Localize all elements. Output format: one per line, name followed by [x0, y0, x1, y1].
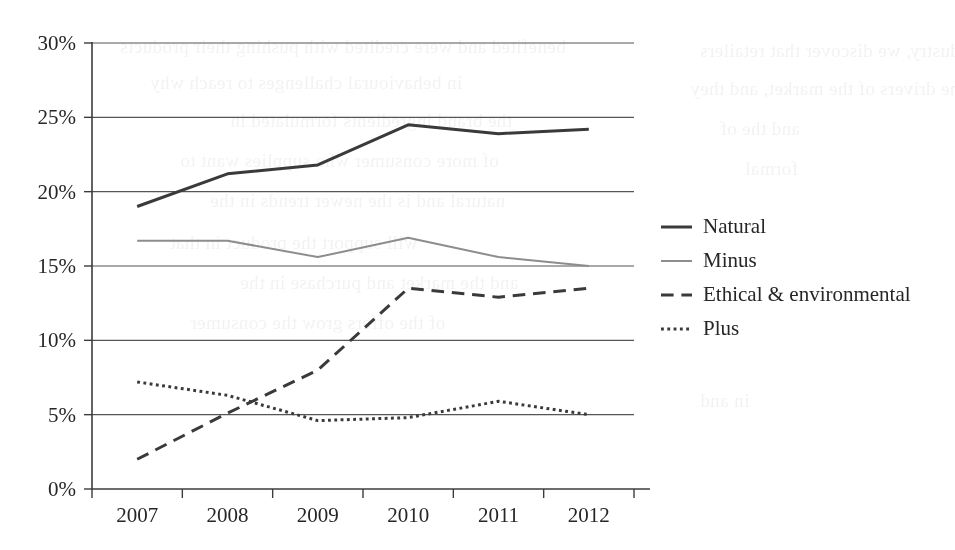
x-tick-label: 2012: [568, 503, 610, 527]
x-tick-label: 2007: [116, 503, 158, 527]
y-tick-label: 20%: [38, 180, 77, 204]
y-tick-label: 15%: [38, 254, 77, 278]
y-tick-label: 25%: [38, 105, 77, 129]
legend: NaturalMinusEthical & environmentalPlus: [661, 214, 911, 340]
series-line-natural: [137, 125, 589, 207]
legend-label: Plus: [703, 316, 739, 340]
legend-label: Ethical & environmental: [703, 282, 911, 306]
x-tick-label: 2011: [478, 503, 519, 527]
series-line-ethical-environmental: [137, 288, 589, 459]
x-tick-label: 2008: [207, 503, 249, 527]
gridlines: [92, 43, 634, 415]
y-tick-labels: 0%5%10%15%20%25%30%: [38, 31, 77, 501]
series-line-minus: [137, 238, 589, 266]
x-axis: [92, 489, 650, 498]
chart-canvas: 0%5%10%15%20%25%30% 20072008200920102011…: [0, 0, 955, 550]
y-tick-label: 30%: [38, 31, 77, 55]
data-series-group: [137, 125, 589, 460]
y-tick-label: 0%: [48, 477, 76, 501]
x-tick-labels: 200720082009201020112012: [116, 503, 610, 527]
x-tick-label: 2010: [387, 503, 429, 527]
x-tick-label: 2009: [297, 503, 339, 527]
y-axis: [84, 42, 92, 489]
y-tick-label: 5%: [48, 403, 76, 427]
legend-label: Natural: [703, 214, 766, 238]
legend-label: Minus: [703, 248, 757, 272]
line-chart-figure: benefited and were credited with pushing…: [0, 0, 955, 550]
y-tick-label: 10%: [38, 328, 77, 352]
